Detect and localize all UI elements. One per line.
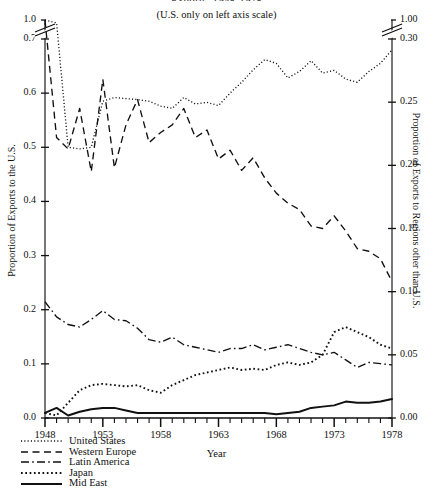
series-line-japan [45, 327, 392, 415]
legend-label: United States [69, 436, 125, 447]
legend-swatch-solid-icon [21, 479, 62, 489]
chart-legend: United StatesWestern EuropeLatin America… [21, 436, 136, 489]
legend-swatch-dash-dot-icon [21, 457, 62, 467]
series-line-united-states [45, 20, 392, 149]
series-line-latin-america [45, 302, 392, 368]
series-line-western-europe [45, 20, 392, 282]
legend-item-united-states[interactable]: United States [21, 436, 136, 447]
legend-swatch-dashed-icon [21, 447, 62, 457]
legend-label: Mid East [69, 478, 107, 489]
legend-swatch-fine-dotted-icon [21, 436, 62, 446]
chart-plot [0, 0, 433, 490]
series-line-mid-east [45, 399, 392, 415]
legend-item-mid-east[interactable]: Mid East [21, 478, 136, 489]
legend-swatch-dotted-icon [21, 468, 62, 478]
